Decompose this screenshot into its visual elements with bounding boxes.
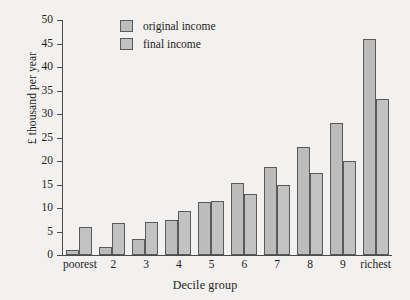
x-axis-tick-label: 5 <box>195 258 228 270</box>
y-axis-tick-label: 20 <box>42 153 54 168</box>
x-axis-tick-label: 6 <box>228 258 261 270</box>
bar-groups <box>63 20 392 255</box>
y-axis-title: £ thousand per year <box>26 18 38 178</box>
y-axis-tick-mark <box>57 20 62 21</box>
y-axis-tick-mark <box>57 67 62 68</box>
x-axis-ticks: poorest23456789richest <box>63 258 392 270</box>
y-axis-tick-mark <box>57 138 62 139</box>
bar-final-income <box>79 227 92 255</box>
grouped-bar-chart: £ thousand per year Decile group origina… <box>0 0 410 300</box>
y-axis-tick-mark <box>57 255 62 256</box>
x-axis-tick-label: 8 <box>294 258 327 270</box>
bar-group <box>195 20 228 255</box>
bar-final-income <box>310 173 323 255</box>
bar-original-income <box>198 202 211 255</box>
bar-final-income <box>145 222 158 255</box>
y-axis-tick-label: 15 <box>42 177 54 192</box>
y-axis-tick-label: 35 <box>42 83 54 98</box>
x-axis-tick-label: richest <box>359 258 392 270</box>
y-axis-tick-mark <box>57 91 62 92</box>
y-axis-tick-mark <box>57 232 62 233</box>
bar-group <box>293 20 326 255</box>
bar-final-income <box>277 185 290 256</box>
bar-final-income <box>211 201 224 255</box>
bar-final-income <box>343 161 356 255</box>
x-axis-tick-label: 4 <box>162 258 195 270</box>
y-axis-tick-label: 10 <box>42 200 54 215</box>
y-axis-tick-label: 5 <box>47 224 53 239</box>
y-axis-tick-mark <box>57 44 62 45</box>
bar-group <box>359 20 392 255</box>
bar-original-income <box>132 239 145 255</box>
bar-final-income <box>178 211 191 255</box>
y-axis-tick-mark <box>57 161 62 162</box>
y-axis-tick-mark <box>57 185 62 186</box>
y-axis-tick-label: 25 <box>42 130 54 145</box>
y-axis-tick-mark <box>57 208 62 209</box>
bar-original-income <box>66 250 79 255</box>
y-axis-tick-label: 30 <box>42 106 54 121</box>
bar-group <box>129 20 162 255</box>
bar-original-income <box>99 247 112 255</box>
bar-original-income <box>330 123 343 255</box>
y-axis-tick-label: 45 <box>42 36 54 51</box>
y-axis-tick-mark <box>57 114 62 115</box>
x-axis-tick-label: poorest <box>63 258 97 270</box>
y-axis-tick-label: 40 <box>42 59 54 74</box>
bar-group <box>63 20 96 255</box>
x-axis-tick-label: 2 <box>97 258 130 270</box>
y-axis-tick-label: 50 <box>42 12 54 27</box>
x-axis-tick-label: 7 <box>261 258 294 270</box>
bar-original-income <box>363 39 376 255</box>
x-axis-tick-label: 3 <box>130 258 163 270</box>
bar-group <box>162 20 195 255</box>
bar-original-income <box>165 220 178 255</box>
bar-group <box>228 20 261 255</box>
bar-final-income <box>112 223 125 255</box>
x-axis-line <box>62 255 392 256</box>
bar-group <box>260 20 293 255</box>
bar-group <box>96 20 129 255</box>
x-axis-tick-label: 9 <box>326 258 359 270</box>
bar-original-income <box>231 183 244 255</box>
bar-final-income <box>376 99 389 256</box>
bar-original-income <box>264 167 277 255</box>
bar-final-income <box>244 194 257 255</box>
y-axis-tick-label: 0 <box>47 247 53 262</box>
plot-area: 05101520253035404550 poorest23456789rich… <box>62 20 392 255</box>
bar-original-income <box>297 147 310 255</box>
x-axis-title: Decile group <box>0 278 410 293</box>
bar-group <box>326 20 359 255</box>
